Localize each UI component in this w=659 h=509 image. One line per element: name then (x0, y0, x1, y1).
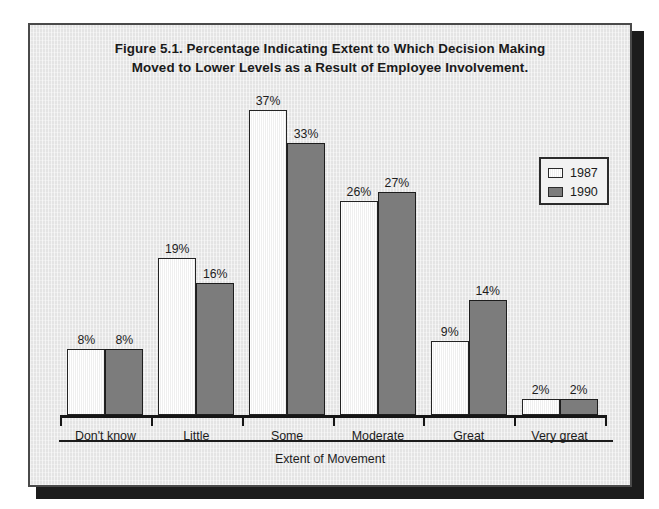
x-axis-tick-label: Don't know (60, 429, 151, 443)
bar-value-label: 16% (203, 267, 228, 281)
x-axis-tick (333, 415, 335, 426)
bar-value-label: 27% (385, 176, 410, 190)
bar-value-label: 8% (116, 333, 134, 347)
x-axis-tick (151, 415, 153, 426)
bar-1987: 8% (67, 349, 105, 415)
bar-value-label: 37% (256, 94, 281, 108)
bar-1990: 16% (196, 283, 234, 415)
x-axis-title: Extent of Movement (30, 452, 630, 466)
bar-1990: 27% (378, 192, 416, 415)
x-axis-tick (423, 415, 425, 426)
bar-pair: 37%33% (242, 85, 333, 415)
x-axis-tick (60, 415, 62, 426)
bar-1987: 19% (158, 258, 196, 415)
x-axis-tick-label: Some (242, 429, 333, 443)
bar-pair: 9%14% (423, 85, 514, 415)
bar-group: 26%27% (333, 85, 424, 415)
bar-1990: 14% (469, 300, 507, 416)
bar-value-label: 2% (532, 383, 550, 397)
bar-value-label: 8% (78, 333, 96, 347)
x-axis-tick-label: Great (423, 429, 514, 443)
bar-1987: 26% (340, 201, 378, 416)
bar-1990: 2% (560, 399, 598, 416)
bar-1990: 33% (287, 143, 325, 415)
bar-group: 37%33% (242, 85, 333, 415)
bar-1987: 2% (522, 399, 560, 416)
figure-title-line-2: Moved to Lower Levels as a Result of Emp… (30, 58, 630, 77)
bar-group: 2%2% (514, 85, 605, 415)
bar-value-label: 33% (294, 127, 319, 141)
x-axis-tick-label: Very great (514, 429, 605, 443)
bar-pair: 8%8% (60, 85, 151, 415)
figure-frame: Figure 5.1. Percentage Indicating Extent… (28, 23, 632, 487)
bar-1987: 9% (431, 341, 469, 415)
bar-1987: 37% (249, 110, 287, 415)
figure-title: Figure 5.1. Percentage Indicating Extent… (30, 39, 630, 77)
bar-value-label: 9% (441, 325, 459, 339)
bar-group: 9%14% (423, 85, 514, 415)
figure-canvas: Figure 5.1. Percentage Indicating Extent… (30, 25, 630, 485)
x-axis-tick-label: Moderate (333, 429, 424, 443)
bar-pair: 2%2% (514, 85, 605, 415)
bar-group: 8%8% (60, 85, 151, 415)
x-axis-tick-label: Little (151, 429, 242, 443)
x-axis-tick (514, 415, 516, 426)
bar-group: 19%16% (151, 85, 242, 415)
bar-value-label: 14% (475, 284, 500, 298)
plot-area: 8%8%19%16%37%33%26%27%9%14%2%2% (60, 85, 605, 415)
bar-pair: 19%16% (151, 85, 242, 415)
bar-value-label: 26% (347, 185, 372, 199)
figure-screenshot: Figure 5.1. Percentage Indicating Extent… (0, 0, 659, 509)
bar-value-label: 19% (165, 242, 190, 256)
x-axis-tick (605, 415, 607, 426)
x-axis-tick (242, 415, 244, 426)
bar-value-label: 2% (570, 383, 588, 397)
bar-pair: 26%27% (333, 85, 424, 415)
figure-title-line-1: Figure 5.1. Percentage Indicating Extent… (115, 41, 546, 56)
bar-1990: 8% (105, 349, 143, 415)
